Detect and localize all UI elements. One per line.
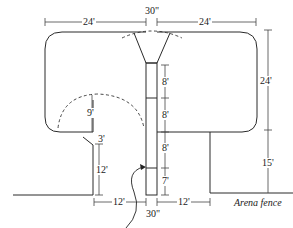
arrow-head-icon (140, 164, 146, 170)
dim-top-right: 24' (198, 17, 212, 27)
dim-bottom-right: 12' (177, 197, 191, 207)
left-swing-arc (58, 94, 144, 128)
dim-right-24: 24' (259, 76, 273, 86)
arena-fence-label: Arena fence (233, 198, 283, 208)
left-pen-diagonal (83, 137, 93, 145)
dim-chute-8b: 8' (161, 110, 170, 120)
funnel-right (157, 33, 170, 63)
dim-left-3: 3' (97, 134, 106, 144)
dim-chute-8a: 8' (161, 77, 170, 87)
dim-top-center: 30" (144, 6, 160, 16)
chute (146, 63, 157, 195)
dim-left-9: 9' (86, 108, 95, 118)
diagram-drawing (0, 0, 293, 228)
dim-right-15: 15' (261, 158, 275, 168)
chute-layout-diagram: 24' 30" 24' 24' 15' 8' 8' 8' 7' 9' 3' 12… (0, 0, 293, 228)
dim-top-left: 24' (82, 17, 96, 27)
dim-bottom-left: 12' (112, 197, 126, 207)
dim-chute-8c: 8' (161, 143, 170, 153)
funnel-left (134, 33, 146, 63)
dim-bottom-center: 30" (145, 209, 161, 219)
roping-box-outline-right (157, 32, 257, 132)
roping-box-outline (45, 32, 146, 132)
dim-chute-7: 7' (161, 176, 170, 186)
dim-left-12: 12' (95, 165, 109, 175)
pointer-arrow (126, 167, 143, 228)
